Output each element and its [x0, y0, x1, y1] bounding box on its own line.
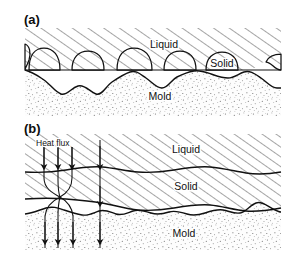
panel-b-label: (b): [24, 121, 41, 136]
figure-root: (a) Liquid Solid Mold: [0, 0, 289, 257]
panel-b-liquid-label: Liquid: [172, 143, 200, 155]
panel-b-solid-label: Solid: [174, 180, 198, 192]
panel-a-solid-label: Solid: [210, 57, 234, 69]
panel-b-mold-label: Mold: [173, 227, 196, 239]
panel-b: (b) Heat flux Liquid Solid Mold: [24, 121, 283, 254]
panel-a-mold-label: Mold: [149, 90, 172, 102]
panel-a-liquid-region: [25, 26, 283, 74]
panel-b-heat-flux-label: Heat flux: [36, 138, 70, 148]
panel-a-label: (a): [24, 12, 40, 27]
panel-a-liquid-label: Liquid: [150, 38, 178, 50]
solidification-diagram: (a) Liquid Solid Mold: [0, 0, 289, 257]
